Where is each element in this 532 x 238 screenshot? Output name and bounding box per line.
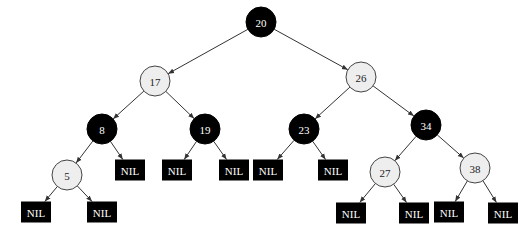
node-label: 19 bbox=[200, 124, 212, 136]
edge-n20-n26 bbox=[274, 29, 348, 70]
nil-leaf: NIL bbox=[253, 160, 283, 181]
node-label: 5 bbox=[64, 170, 70, 182]
edge-n38-nil38L bbox=[455, 181, 467, 202]
nil-label: NIL bbox=[440, 207, 459, 219]
nil-label: NIL bbox=[93, 207, 112, 219]
tree-node-26: 26 bbox=[346, 62, 376, 92]
nil-leaf: NIL bbox=[21, 202, 51, 223]
edge-n27-nil27R bbox=[394, 184, 407, 202]
edge-n23-nil23L bbox=[277, 140, 294, 159]
edge-n34-n38 bbox=[437, 135, 463, 158]
edge-n26-n23 bbox=[315, 87, 350, 119]
edge-n20-n17 bbox=[168, 29, 248, 73]
edge-n8-nil8R bbox=[110, 141, 122, 159]
edge-n17-n19 bbox=[166, 91, 194, 118]
nil-label: NIL bbox=[121, 165, 140, 177]
nil-label: NIL bbox=[342, 208, 361, 220]
edge-n19-nil19R bbox=[214, 141, 227, 159]
edge-n34-n27 bbox=[395, 136, 416, 160]
tree-node-19: 19 bbox=[190, 114, 220, 144]
nil-label: NIL bbox=[405, 208, 424, 220]
nil-label: NIL bbox=[27, 207, 46, 219]
node-label: 8 bbox=[99, 124, 105, 136]
nil-leaf: NIL bbox=[219, 160, 249, 181]
edge-n17-n8 bbox=[113, 91, 144, 119]
edge-n27-nil27L bbox=[360, 184, 376, 203]
nil-leaf: NIL bbox=[87, 202, 117, 223]
tree-node-23: 23 bbox=[289, 114, 319, 144]
nil-leaf: NIL bbox=[488, 203, 518, 224]
node-label: 23 bbox=[299, 124, 311, 136]
tree-canvas: 201726819233452738NILNILNILNILNILNILNILN… bbox=[0, 0, 532, 238]
tree-node-5: 5 bbox=[52, 160, 82, 190]
node-label: 38 bbox=[470, 163, 482, 175]
tree-node-38: 38 bbox=[460, 153, 490, 183]
tree-node-20: 20 bbox=[246, 7, 276, 37]
nil-leaf: NIL bbox=[115, 160, 145, 181]
node-label: 34 bbox=[421, 120, 433, 132]
edge-n38-nil38R bbox=[483, 181, 497, 203]
edge-n23-nil23R bbox=[313, 141, 326, 159]
node-label: 17 bbox=[150, 76, 162, 88]
nil-label: NIL bbox=[168, 165, 187, 177]
nil-leaf: NIL bbox=[162, 160, 192, 181]
nil-leaf: NIL bbox=[399, 203, 429, 224]
tree-node-34: 34 bbox=[411, 110, 441, 140]
edge-n5-nil5R bbox=[77, 186, 92, 202]
nil-leaf: NIL bbox=[336, 203, 366, 224]
red-black-tree-diagram: 201726819233452738NILNILNILNILNILNILNILN… bbox=[0, 0, 532, 238]
tree-node-27: 27 bbox=[370, 157, 400, 187]
nodes-layer: 201726819233452738NILNILNILNILNILNILNILN… bbox=[21, 7, 518, 224]
edge-n5-nil5L bbox=[45, 186, 58, 201]
node-label: 26 bbox=[356, 72, 368, 84]
edge-n26-n34 bbox=[373, 86, 414, 116]
node-label: 27 bbox=[380, 167, 392, 179]
nil-label: NIL bbox=[494, 208, 513, 220]
nil-leaf: NIL bbox=[434, 202, 464, 223]
nil-label: NIL bbox=[324, 165, 343, 177]
edge-n8-n5 bbox=[76, 141, 93, 163]
tree-node-17: 17 bbox=[140, 66, 170, 96]
nil-leaf: NIL bbox=[318, 160, 348, 181]
tree-node-8: 8 bbox=[87, 114, 117, 144]
nil-label: NIL bbox=[259, 165, 278, 177]
edge-n19-nil19L bbox=[184, 141, 196, 159]
nil-label: NIL bbox=[225, 165, 244, 177]
node-label: 20 bbox=[256, 17, 268, 29]
